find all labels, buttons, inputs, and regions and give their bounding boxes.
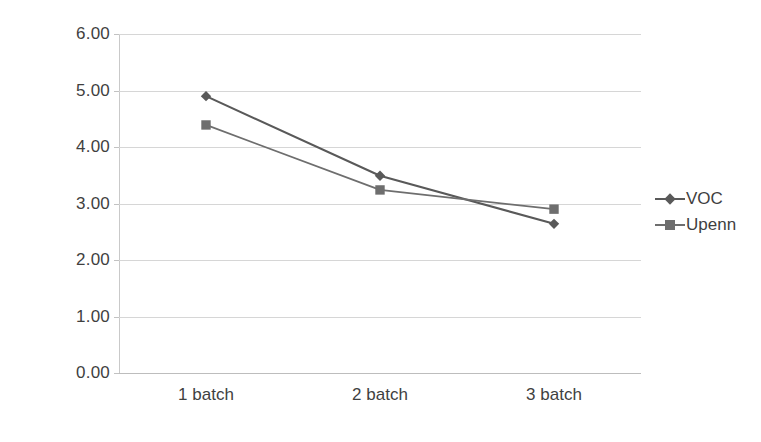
legend-item-voc[interactable]: VOC xyxy=(655,186,761,212)
series-line xyxy=(206,125,554,209)
x-axis-labels: 1 batch2 batch3 batch xyxy=(119,386,641,412)
y-axis-tick-label: 5.00 xyxy=(44,82,110,99)
series-line xyxy=(206,96,554,224)
y-axis-tick xyxy=(114,373,119,374)
data-point-diamond[interactable] xyxy=(375,171,385,181)
y-axis-tick-label: 4.00 xyxy=(44,138,110,155)
data-point-diamond[interactable] xyxy=(201,91,211,101)
y-axis-labels: 6.005.004.003.002.001.000.00 xyxy=(30,0,110,442)
data-point-square[interactable] xyxy=(201,120,210,129)
series-voc xyxy=(201,91,559,229)
chart-legend: VOC Upenn xyxy=(655,186,761,238)
series-upenn xyxy=(201,120,558,214)
diamond-icon xyxy=(664,193,675,204)
plot-area xyxy=(119,34,641,373)
y-axis-tick-label: 2.00 xyxy=(44,251,110,268)
data-point-diamond[interactable] xyxy=(549,219,559,229)
y-axis-tick-label: 1.00 xyxy=(44,308,110,325)
y-axis-tick-label: 6.00 xyxy=(44,25,110,42)
gridline xyxy=(119,373,641,374)
y-axis-tick-label: 0.00 xyxy=(44,364,110,381)
legend-label-upenn: Upenn xyxy=(686,216,736,234)
legend-label-voc: VOC xyxy=(686,190,723,208)
x-axis-tick-label: 2 batch xyxy=(352,386,408,404)
series-layer xyxy=(119,34,641,373)
data-point-square[interactable] xyxy=(549,204,558,213)
line-chart: 6.005.004.003.002.001.000.00 1 batch2 ba… xyxy=(0,0,761,442)
data-point-square[interactable] xyxy=(375,185,384,194)
square-icon xyxy=(665,220,675,230)
legend-item-upenn[interactable]: Upenn xyxy=(655,212,761,238)
x-axis-tick-label: 3 batch xyxy=(526,386,582,404)
x-axis-tick-label: 1 batch xyxy=(178,386,234,404)
legend-marker-diamond-icon xyxy=(655,192,685,206)
y-axis-tick-label: 3.00 xyxy=(44,195,110,212)
legend-marker-square-icon xyxy=(655,218,685,232)
